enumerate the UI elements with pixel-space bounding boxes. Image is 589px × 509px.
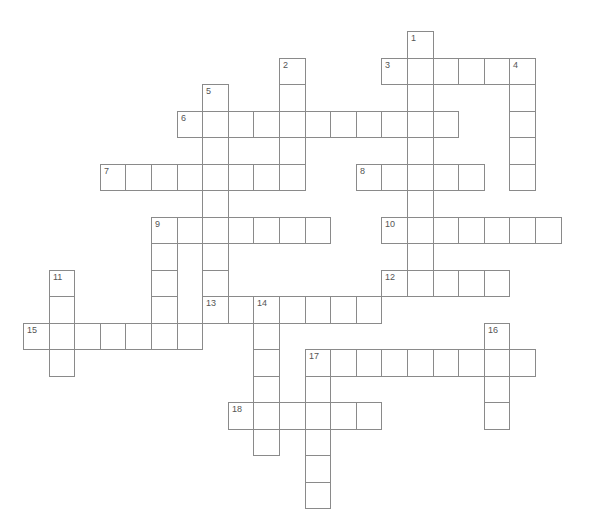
crossword-cell[interactable] [330,111,357,138]
crossword-cell[interactable] [484,376,510,403]
crossword-cell[interactable] [202,111,229,138]
crossword-cell[interactable] [458,164,485,191]
crossword-cell[interactable]: 9 [151,217,178,244]
crossword-cell[interactable] [202,270,229,297]
crossword-cell[interactable] [253,376,280,403]
crossword-cell[interactable] [356,111,382,138]
crossword-cell[interactable] [381,111,408,138]
crossword-cell[interactable]: 3 [381,58,408,85]
crossword-cell[interactable] [177,164,203,191]
crossword-cell[interactable] [305,482,331,509]
crossword-cell[interactable] [484,270,510,297]
crossword-cell[interactable] [509,111,536,138]
crossword-cell[interactable] [305,376,331,403]
crossword-cell[interactable] [433,58,459,85]
crossword-cell[interactable] [305,296,331,324]
crossword-cell[interactable] [151,296,178,324]
crossword-cell[interactable] [407,270,434,297]
crossword-cell[interactable] [433,111,459,138]
crossword-cell[interactable] [279,296,306,324]
crossword-cell[interactable] [433,164,459,191]
crossword-cell[interactable]: 5 [202,84,229,112]
crossword-cell[interactable]: 10 [381,217,408,244]
crossword-cell[interactable] [177,323,203,350]
crossword-cell[interactable]: 15 [23,323,50,350]
crossword-cell[interactable] [509,164,536,191]
crossword-cell[interactable] [407,349,434,377]
crossword-cell[interactable] [279,137,306,165]
crossword-cell[interactable] [74,323,101,350]
crossword-cell[interactable] [305,111,331,138]
crossword-cell[interactable] [228,296,254,324]
crossword-cell[interactable] [509,217,536,244]
crossword-cell[interactable] [253,111,280,138]
crossword-cell[interactable]: 11 [49,270,75,297]
crossword-cell[interactable] [407,243,434,271]
crossword-cell[interactable] [305,455,331,483]
crossword-cell[interactable] [202,190,229,218]
crossword-cell[interactable] [458,270,485,297]
crossword-cell[interactable] [228,111,254,138]
crossword-cell[interactable]: 7 [100,164,126,191]
crossword-cell[interactable] [433,270,459,297]
crossword-cell[interactable] [407,111,434,138]
crossword-cell[interactable]: 18 [228,402,254,430]
crossword-cell[interactable] [125,164,152,191]
crossword-cell[interactable] [228,164,254,191]
crossword-cell[interactable] [305,402,331,430]
crossword-cell[interactable]: 1 [407,31,434,59]
crossword-cell[interactable] [407,84,434,112]
crossword-cell[interactable] [125,323,152,350]
crossword-cell[interactable]: 6 [177,111,203,138]
crossword-cell[interactable] [381,164,408,191]
crossword-cell[interactable] [535,217,562,244]
crossword-cell[interactable]: 12 [381,270,408,297]
crossword-cell[interactable] [151,323,178,350]
crossword-cell[interactable] [407,137,434,165]
crossword-cell[interactable] [202,137,229,165]
crossword-cell[interactable] [253,217,280,244]
crossword-cell[interactable] [253,164,280,191]
crossword-cell[interactable] [202,217,229,244]
crossword-cell[interactable] [151,270,178,297]
crossword-cell[interactable] [458,349,485,377]
crossword-cell[interactable] [279,217,306,244]
crossword-cell[interactable]: 4 [509,58,536,85]
crossword-cell[interactable] [433,349,459,377]
crossword-cell[interactable] [433,217,459,244]
crossword-cell[interactable] [253,402,280,430]
crossword-cell[interactable] [100,323,126,350]
crossword-cell[interactable] [356,402,382,430]
crossword-cell[interactable] [177,217,203,244]
crossword-cell[interactable] [279,84,306,112]
crossword-cell[interactable] [202,164,229,191]
crossword-cell[interactable]: 14 [253,296,280,324]
crossword-cell[interactable] [381,349,408,377]
crossword-cell[interactable] [407,164,434,191]
crossword-cell[interactable] [484,349,510,377]
crossword-cell[interactable] [330,296,357,324]
crossword-cell[interactable] [458,58,485,85]
crossword-cell[interactable]: 13 [202,296,229,324]
crossword-cell[interactable] [228,217,254,244]
crossword-cell[interactable] [484,217,510,244]
crossword-cell[interactable] [151,243,178,271]
crossword-cell[interactable]: 16 [484,323,510,350]
crossword-cell[interactable] [484,402,510,430]
crossword-cell[interactable] [279,402,306,430]
crossword-cell[interactable]: 17 [305,349,331,377]
crossword-cell[interactable] [509,349,536,377]
crossword-cell[interactable] [305,217,331,244]
crossword-cell[interactable] [253,323,280,350]
crossword-cell[interactable] [484,58,510,85]
crossword-cell[interactable] [49,296,75,324]
crossword-cell[interactable] [253,349,280,377]
crossword-cell[interactable] [49,349,75,377]
crossword-cell[interactable] [356,349,382,377]
crossword-cell[interactable]: 2 [279,58,306,85]
crossword-cell[interactable] [202,243,229,271]
crossword-cell[interactable] [279,111,306,138]
crossword-cell[interactable] [330,349,357,377]
crossword-cell[interactable] [49,323,75,350]
crossword-cell[interactable] [509,137,536,165]
